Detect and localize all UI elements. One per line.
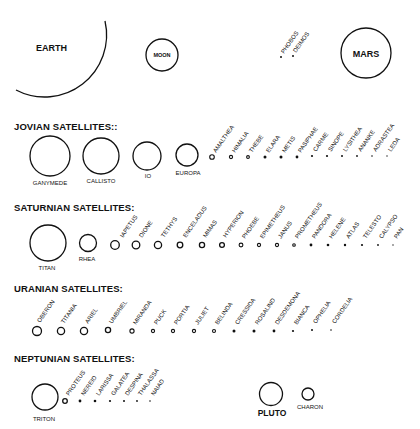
elara-dot <box>264 156 267 159</box>
triton-label: TRITON <box>33 416 55 422</box>
galatea-dot <box>109 400 111 402</box>
dione-label: DIONE <box>138 220 154 239</box>
pluto-circle <box>260 383 283 406</box>
charon-label: CHARON <box>297 404 323 410</box>
cordelia-label: CORDELIA <box>331 296 354 325</box>
pan-dot <box>392 244 393 245</box>
jovian-heading: JOVIAN SATELLITES:: <box>14 121 118 132</box>
miranda-dot <box>130 329 134 333</box>
charon-circle <box>302 388 314 400</box>
leda-label: LEDA <box>387 136 401 152</box>
rhea-circle <box>80 235 97 252</box>
ophelia-label: OPHELIA <box>312 300 332 325</box>
phobos-dot <box>280 56 282 58</box>
juliet-label: JULIET <box>194 305 211 325</box>
lysithea-dot <box>341 155 343 157</box>
metis-label: METIS <box>281 135 296 153</box>
carme-dot <box>311 155 313 157</box>
ophelia-dot <box>311 329 313 331</box>
neptunian-moons: TRITON PROTEUS NEREID LARISSA GALATEA DE… <box>32 367 166 422</box>
iapetus-dot <box>111 241 120 250</box>
atlas-label: ATLAS <box>345 221 361 240</box>
titan-circle <box>30 225 66 261</box>
umbriel-dot <box>105 327 110 332</box>
oberon-dot <box>33 327 42 336</box>
himalia-dot <box>229 155 232 158</box>
mimas-label: MIMAS <box>202 219 218 239</box>
atlas-dot <box>344 244 346 246</box>
calypso-dot <box>377 244 379 246</box>
ganymede-label: GANYMEDE <box>33 180 67 186</box>
leda-dot <box>386 155 387 156</box>
cressida-dot <box>233 330 236 333</box>
belinda-dot <box>213 330 216 333</box>
cressida-label: CRESSIDA <box>234 297 257 326</box>
ariel-dot <box>80 327 87 334</box>
mars-group: MARS <box>341 28 391 78</box>
moon-group: MOON <box>146 39 178 71</box>
uranian-moons: OBERON TITANIA ARIEL UMBRIEL MIRANDA PUC… <box>33 290 354 335</box>
moon-label: MOON <box>153 52 170 58</box>
jovian-large-moons: GANYMEDE CALLISTO IO EUROPA <box>30 136 200 186</box>
puck-dot <box>151 329 154 332</box>
europa-label: EUROPA <box>176 170 201 176</box>
thalassa-dot <box>136 400 138 402</box>
elara-label: ELARA <box>265 134 281 154</box>
saturnian-large-moons: TITAN RHEA <box>30 225 97 271</box>
titan-label: TITAN <box>39 265 56 271</box>
belinda-label: BELINDA <box>214 301 234 325</box>
mars-moons-group: PHOBOS DEIMOS <box>280 30 310 58</box>
phoebe-dot <box>239 243 243 247</box>
janus-label: JANUS <box>277 220 293 240</box>
metis-dot <box>280 156 283 159</box>
bianca-dot <box>292 330 294 332</box>
dione-dot <box>132 241 140 249</box>
rosalind-dot <box>253 330 256 333</box>
saturnian-small-moons: IAPETUS DIONE TETHYS ENCELADUS MIMAS HYP… <box>111 201 405 249</box>
deimos-dot <box>292 55 294 57</box>
triton-circle <box>32 384 58 410</box>
titania-label: TITANIA <box>60 303 78 325</box>
desdemona-dot <box>273 330 276 333</box>
telesto-dot <box>361 244 363 246</box>
mimas-dot <box>199 242 204 247</box>
thebe-dot <box>247 156 250 159</box>
neptunian-heading: NEPTUNIAN SATELLITES: <box>14 353 135 364</box>
pasiphae-dot <box>296 156 299 159</box>
amalthea-dot <box>210 155 215 160</box>
pluto-label: PLUTO <box>258 408 287 418</box>
rhea-label: RHEA <box>79 256 96 262</box>
earth-arc <box>16 21 107 97</box>
portia-dot <box>171 329 174 332</box>
uranian-heading: URANIAN SATELLITES: <box>14 283 123 294</box>
portia-label: PORTIA <box>173 304 191 326</box>
titania-dot <box>57 327 64 334</box>
naiad-dot <box>149 400 151 402</box>
janus-dot <box>275 243 278 246</box>
hyperion-dot <box>220 243 225 248</box>
tethys-label: TETHYS <box>160 216 178 239</box>
oberon-label: OBERON <box>36 299 56 324</box>
satellite-size-diagram: EARTH MOON PHOBOS DEIMOS MARS JOVIAN SAT… <box>0 0 420 429</box>
earth-label: EARTH <box>36 43 67 53</box>
pluto-system: PLUTO CHARON <box>258 383 323 419</box>
saturnian-heading: SATURNIAN SATELLITES: <box>14 202 135 213</box>
callisto-label: CALLISTO <box>87 178 116 184</box>
io-label: IO <box>145 173 152 179</box>
sinope-dot <box>326 155 328 157</box>
pan-label: PAN <box>393 226 405 239</box>
bianca-label: BIANCA <box>293 304 311 326</box>
adrastea-dot <box>371 155 373 157</box>
tethys-dot <box>154 241 161 248</box>
epimetheus-dot <box>257 243 260 246</box>
prometheus-dot <box>293 244 296 247</box>
ariel-label: ARIEL <box>84 306 99 324</box>
ananke-dot <box>356 155 358 157</box>
ganymede-circle <box>30 136 70 176</box>
jovian-small-moons: AMALTHEA HIMALIA THEBE ELARA METIS PASIP… <box>210 123 401 160</box>
puck-label: PUCK <box>153 308 167 325</box>
europa-circle <box>176 144 198 166</box>
helene-dot <box>327 244 330 247</box>
enceladus-dot <box>177 242 183 248</box>
miranda-label: MIRANDA <box>132 299 153 325</box>
